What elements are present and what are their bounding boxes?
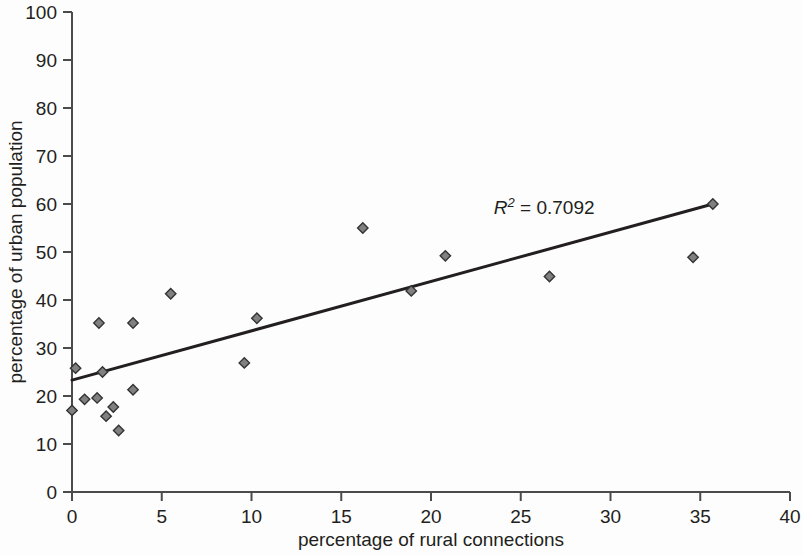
y-tick-label: 60 <box>36 194 57 215</box>
x-tick-label: 25 <box>510 506 531 527</box>
data-point-marker <box>128 385 138 395</box>
data-point-marker <box>166 289 176 299</box>
x-axis-ticks: 0510152025303540 <box>67 492 801 527</box>
data-point-marker <box>113 425 123 435</box>
x-axis-title: percentage of rural connections <box>298 529 564 550</box>
data-point-marker <box>239 358 249 368</box>
data-point-marker <box>128 318 138 328</box>
x-tick-label: 10 <box>241 506 262 527</box>
data-point-marker <box>97 367 107 377</box>
data-point-marker <box>252 313 262 323</box>
x-tick-label: 5 <box>156 506 167 527</box>
data-point-marker <box>358 223 368 233</box>
data-point-marker <box>67 405 77 415</box>
data-point-marker <box>440 251 450 261</box>
axes <box>72 12 790 492</box>
x-tick-label: 0 <box>67 506 78 527</box>
y-tick-label: 40 <box>36 290 57 311</box>
data-point-marker <box>101 411 111 421</box>
data-point-marker <box>92 393 102 403</box>
data-point-marker <box>79 394 89 404</box>
y-tick-label: 70 <box>36 146 57 167</box>
y-axis-ticks: 0102030405060708090100 <box>25 2 72 503</box>
x-tick-label: 30 <box>600 506 621 527</box>
y-tick-label: 50 <box>36 242 57 263</box>
y-tick-label: 20 <box>36 386 57 407</box>
data-point-marker <box>94 318 104 328</box>
scatter-plot-figure: 0102030405060708090100 0510152025303540 … <box>0 0 803 556</box>
data-point-markers <box>67 199 718 436</box>
x-tick-label: 15 <box>331 506 352 527</box>
y-tick-label: 0 <box>46 482 57 503</box>
x-tick-label: 35 <box>690 506 711 527</box>
y-tick-label: 10 <box>36 434 57 455</box>
x-tick-label: 20 <box>420 506 441 527</box>
plot-canvas: 0102030405060708090100 0510152025303540 … <box>0 0 803 556</box>
data-point-marker <box>708 199 718 209</box>
y-axis-title: percentage of urban population <box>5 120 26 383</box>
r-squared-annotation: R2 = 0.7092 <box>494 195 595 218</box>
data-point-marker <box>688 252 698 262</box>
x-tick-label: 40 <box>779 506 800 527</box>
r-squared-label: R2 = 0.7092 <box>494 195 595 218</box>
data-point-marker <box>108 402 118 412</box>
data-point-marker <box>544 271 554 281</box>
y-tick-label: 90 <box>36 50 57 71</box>
y-tick-label: 100 <box>25 2 57 23</box>
y-tick-label: 30 <box>36 338 57 359</box>
y-tick-label: 80 <box>36 98 57 119</box>
